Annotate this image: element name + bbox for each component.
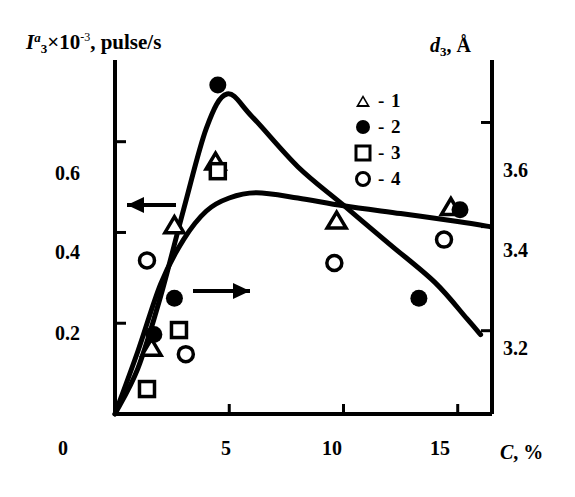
data-point-series-3-0	[139, 382, 154, 397]
axis-ticks	[115, 122, 492, 414]
data-point-series-4-1	[178, 347, 193, 362]
axis-arrows	[127, 197, 250, 299]
arrow-left-axis	[127, 197, 176, 213]
data-markers	[139, 76, 468, 396]
data-point-series-2-0	[145, 326, 162, 343]
data-point-series-3-1	[171, 323, 186, 338]
data-point-series-2-1	[166, 290, 183, 307]
data-point-series-4-0	[139, 253, 154, 268]
data-point-series-4-2	[327, 256, 342, 271]
arrow-right-axis	[193, 283, 250, 299]
chart-figure: Ia3×10-3, pulse/s d3, Å C, % 0.6 0.4 0.2…	[0, 0, 575, 497]
data-point-series-2-3	[410, 290, 427, 307]
data-point-series-2-4	[452, 201, 469, 218]
data-point-series-2-2	[209, 76, 226, 93]
data-point-series-1-3	[327, 212, 346, 228]
curve-intensity-curve	[115, 94, 481, 414]
data-point-series-4-3	[437, 232, 452, 247]
data-point-series-3-2	[210, 164, 225, 179]
fitted-curves	[115, 94, 490, 414]
plot-area	[0, 0, 575, 497]
